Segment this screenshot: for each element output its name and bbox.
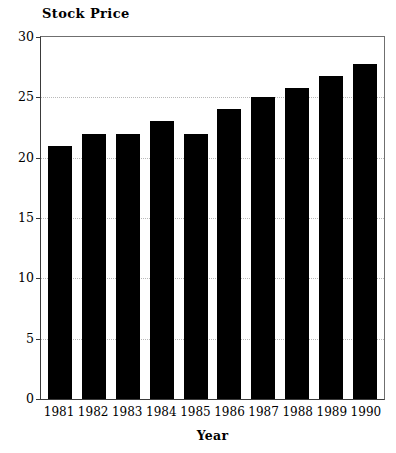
x-tick-label: 1984 — [144, 404, 178, 422]
bar-slot — [179, 37, 213, 399]
x-axis-title: Year — [40, 428, 385, 443]
y-tick-label: 0 — [26, 393, 34, 406]
x-tick-label: 1985 — [178, 404, 212, 422]
bar-slot — [280, 37, 314, 399]
bar[interactable] — [116, 134, 140, 399]
bar-slot — [111, 37, 145, 399]
y-tick-label: 20 — [18, 151, 34, 164]
bar-slot — [348, 37, 382, 399]
x-tick-label: 1990 — [349, 404, 383, 422]
bar[interactable] — [150, 121, 174, 399]
bar[interactable] — [184, 134, 208, 399]
y-tick-label: 30 — [18, 31, 34, 44]
x-tick-label: 1983 — [110, 404, 144, 422]
bar-slot — [43, 37, 77, 399]
x-tick-label: 1988 — [281, 404, 315, 422]
x-axis-tick-labels: 1981198219831984198519861987198819891990 — [40, 404, 385, 422]
x-tick-label: 1982 — [76, 404, 110, 422]
bar-slot — [145, 37, 179, 399]
bar[interactable] — [319, 76, 343, 399]
y-tick-label: 15 — [18, 212, 34, 225]
x-tick-label: 1987 — [247, 404, 281, 422]
bar[interactable] — [217, 109, 241, 399]
plot-area: 051015202530 — [40, 36, 385, 400]
chart-title: Stock Price — [42, 6, 130, 22]
bar[interactable] — [82, 134, 106, 399]
y-tick-label: 25 — [18, 91, 34, 104]
x-tick-label: 1986 — [212, 404, 246, 422]
y-tick-label: 5 — [26, 332, 34, 345]
x-tick-label: 1989 — [315, 404, 349, 422]
bar-slot — [246, 37, 280, 399]
bar-chart: Stock Price 051015202530 198119821983198… — [0, 0, 396, 453]
bar[interactable] — [353, 64, 377, 399]
bar-slot — [77, 37, 111, 399]
y-tick-mark — [36, 399, 41, 400]
bar-series — [41, 37, 384, 399]
bar-slot — [314, 37, 348, 399]
bar-slot — [213, 37, 247, 399]
bar[interactable] — [285, 88, 309, 399]
bar[interactable] — [48, 146, 72, 399]
y-tick-label: 10 — [18, 272, 34, 285]
x-tick-label: 1981 — [42, 404, 76, 422]
bar[interactable] — [251, 97, 275, 399]
